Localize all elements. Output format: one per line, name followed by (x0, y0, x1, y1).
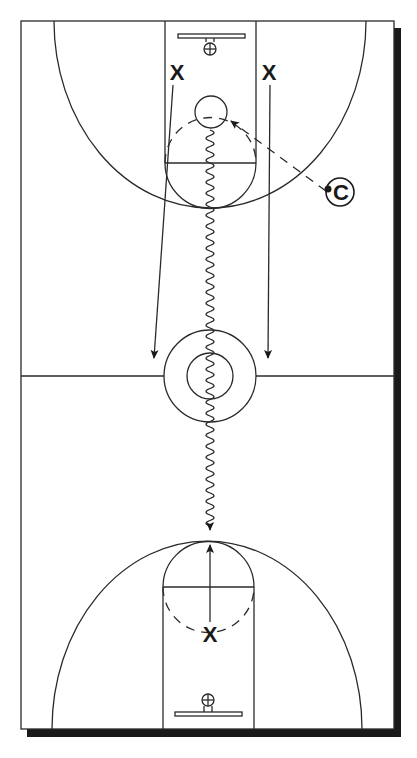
coach-dot (325, 186, 332, 193)
player-x-top-left: X (170, 60, 185, 85)
coach-label: C (333, 180, 349, 205)
court-shadow-right (394, 28, 401, 737)
player-x-top-right: X (262, 60, 277, 85)
hoop-connector-bottom (204, 706, 212, 712)
cut-arrow-right (268, 85, 270, 358)
hoop-bottom-icon (202, 694, 214, 706)
pass-arrow-dashed (231, 121, 326, 191)
hoop-top-icon (204, 43, 216, 55)
coach-marker: C (325, 178, 355, 206)
free-throw-circle-bottom-solid (163, 542, 254, 587)
backboard-top (178, 34, 245, 38)
cut-arrow-left (154, 85, 173, 358)
court-shadow-bottom (27, 729, 401, 737)
backboard-bottom (175, 712, 242, 716)
ball-top (195, 96, 227, 128)
center-circle-outer (164, 330, 256, 422)
basketball-court-diagram: X X X C (0, 0, 417, 758)
center-circle-inner (187, 353, 233, 399)
free-throw-circle-top-dashed (165, 118, 256, 163)
player-x-bottom: X (203, 622, 218, 647)
